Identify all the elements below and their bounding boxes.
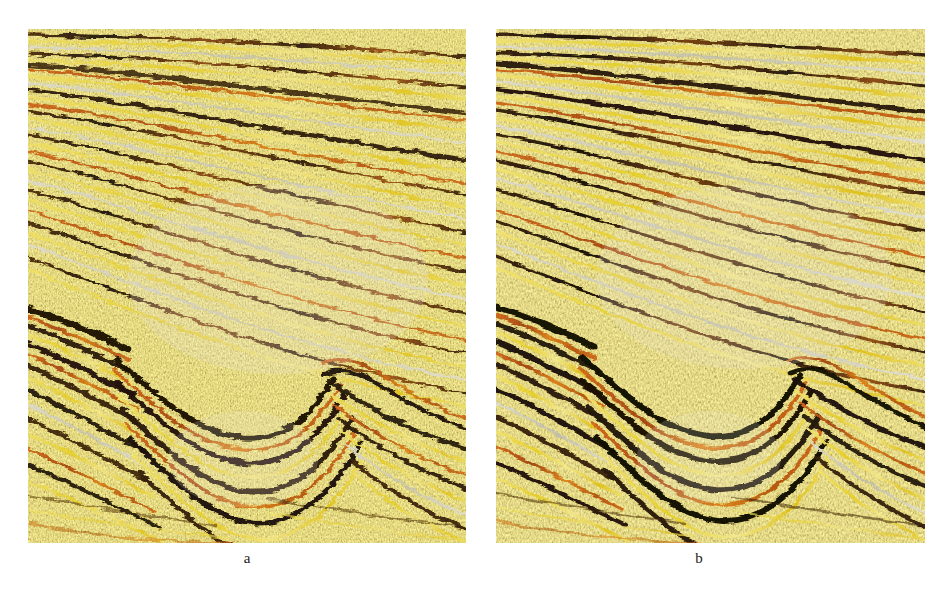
panel-caption-a: a <box>188 551 306 566</box>
seismic-panel-b <box>496 29 925 543</box>
seismic-figure: a b <box>0 0 950 598</box>
seismic-panel-a <box>28 29 466 543</box>
seismic-image-a <box>28 29 466 543</box>
seismic-image-b <box>496 29 925 543</box>
panel-caption-b: b <box>640 551 758 566</box>
